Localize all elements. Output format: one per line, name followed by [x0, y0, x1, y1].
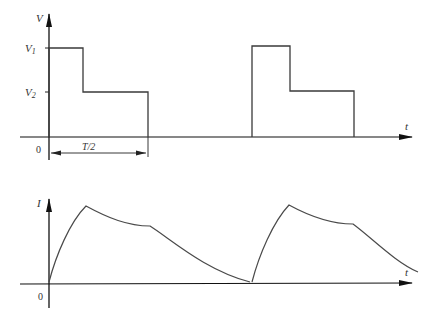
current-origin-label: 0	[38, 291, 43, 302]
current-y-label: I	[36, 197, 42, 209]
v2-label: V2	[25, 86, 36, 100]
current-x-label: t	[405, 266, 409, 278]
voltage-pulse-1	[49, 48, 148, 137]
voltage-origin-label: 0	[36, 144, 41, 155]
current-x-axis	[20, 283, 412, 284]
v1-label: V1	[25, 42, 36, 56]
voltage-plot: V V1 V2 0 T/2 t	[20, 12, 412, 160]
voltage-y-label: V	[36, 12, 44, 24]
voltage-x-label: t	[405, 120, 409, 132]
current-plot: I 0 t	[20, 197, 418, 308]
voltage-pulse-2	[252, 46, 354, 137]
half-period-label: T/2	[82, 141, 95, 152]
current-curve-1	[49, 206, 250, 282]
current-curve-2	[252, 205, 418, 282]
diagram-canvas: V V1 V2 0 T/2 t I 0 t	[0, 0, 441, 321]
